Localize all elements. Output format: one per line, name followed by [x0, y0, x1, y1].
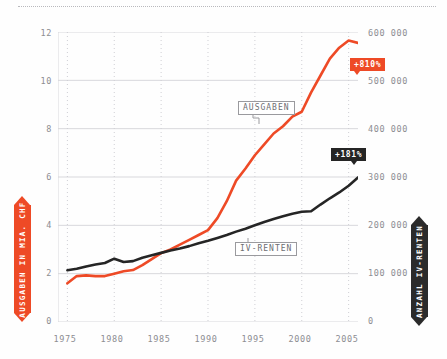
xtick-1995: 1995 — [230, 334, 276, 344]
badge-expenses-pointer — [354, 71, 360, 75]
ytick-left-10: 10 — [26, 76, 52, 86]
badge-expenses-growth: +810% — [350, 58, 385, 71]
xtick-1980: 1980 — [89, 334, 135, 344]
xtick-1975: 1975 — [42, 334, 88, 344]
axis-label-banner-left: AUSGABEN IN MIA. CHF — [14, 196, 31, 322]
axis-label-right-text: ANZAHL IV-RENTEN — [415, 224, 424, 317]
ytick-left-6: 6 — [26, 172, 52, 182]
banner-right-arrow-bottom — [411, 317, 427, 326]
series-line-expenses — [67, 40, 358, 283]
xtick-1985: 1985 — [136, 334, 182, 344]
chart-figure: 12 10 8 6 4 2 0 600 000 500 000 400 000 … — [0, 0, 447, 359]
xtick-1990: 1990 — [183, 334, 229, 344]
xtick-2005: 2005 — [324, 334, 370, 344]
ytick-right-400000: 400 000 — [368, 124, 428, 134]
badge-pensions-pointer — [351, 161, 357, 165]
series-callout-expenses: AUSGABEN — [238, 101, 295, 115]
top-dotted-rule — [18, 6, 436, 8]
chart-canvas — [58, 32, 358, 322]
series-callout-pensions: IV-RENTEN — [235, 242, 297, 256]
badge-expenses-text: +810% — [354, 60, 381, 69]
banner-right-arrow-top — [411, 216, 427, 225]
badge-pensions-text: +181% — [335, 150, 362, 159]
axis-label-left-text: AUSGABEN IN MIA. CHF — [18, 201, 27, 317]
ytick-right-600000: 600 000 — [368, 28, 428, 38]
xtick-2000: 2000 — [277, 334, 323, 344]
ytick-right-500000: 500 000 — [368, 76, 428, 86]
badge-pensions-growth: +181% — [331, 148, 366, 161]
axis-label-banner-right: ANZAHL IV-RENTEN — [411, 216, 428, 326]
ytick-left-12: 12 — [26, 28, 52, 38]
plot-area — [58, 32, 358, 322]
ytick-right-300000: 300 000 — [368, 172, 428, 182]
ytick-left-8: 8 — [26, 124, 52, 134]
